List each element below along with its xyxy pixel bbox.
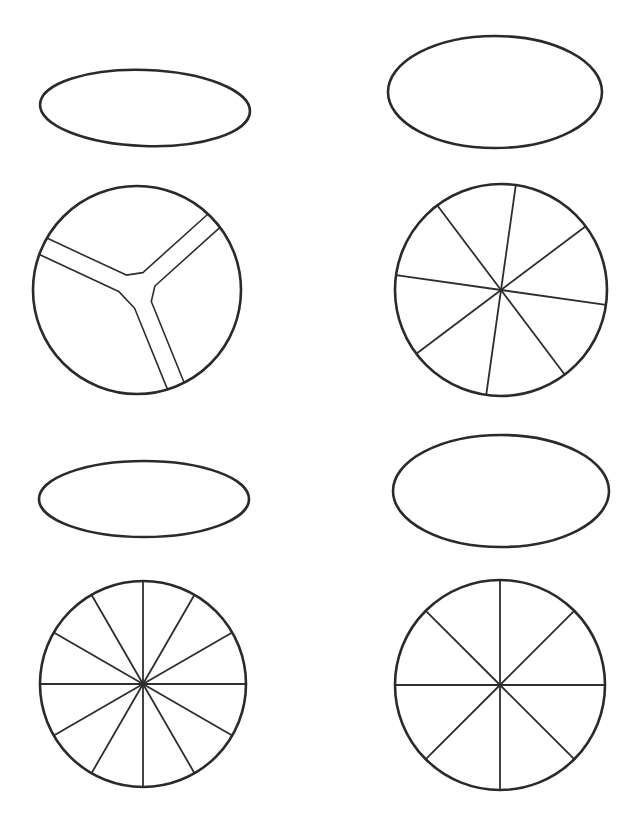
spoke-line xyxy=(486,290,501,395)
panel-top-left xyxy=(33,66,251,394)
ellipse-shape xyxy=(39,66,252,149)
panel-bottom-right xyxy=(393,435,609,790)
circle-outline xyxy=(33,186,241,394)
channel-wall xyxy=(47,214,208,275)
panel-bottom-left xyxy=(39,461,249,787)
spoke-line xyxy=(143,684,232,736)
spoke-line xyxy=(54,633,143,685)
spoke-line xyxy=(500,685,574,759)
spoke-line xyxy=(92,684,144,773)
spoke-line xyxy=(500,611,574,685)
spoke-line xyxy=(54,684,143,736)
divided-circle-12 xyxy=(40,581,246,787)
spoke-line xyxy=(396,275,501,290)
divided-circle-8 xyxy=(395,184,607,396)
panel-top-right xyxy=(388,36,607,396)
spoke-line xyxy=(143,633,232,685)
spoke-line xyxy=(501,290,606,305)
divided-circle-3 xyxy=(33,186,241,394)
spoke-line xyxy=(92,595,144,684)
spoke-line xyxy=(143,595,195,684)
spoke-line xyxy=(501,226,586,290)
spoke-line xyxy=(426,611,500,685)
ellipse-shape xyxy=(39,461,249,537)
divided-circle-8 xyxy=(395,580,605,790)
spoke-line xyxy=(143,684,195,773)
spoke-line xyxy=(426,685,500,759)
spoke-line xyxy=(416,290,501,354)
channel-wall xyxy=(39,254,167,389)
channel-wall xyxy=(151,227,220,382)
ellipse-shape xyxy=(393,435,609,547)
ellipse-shape xyxy=(388,36,602,148)
diagram-canvas xyxy=(0,0,637,826)
spoke-line xyxy=(501,185,516,290)
spoke-line xyxy=(501,290,565,375)
spoke-line xyxy=(437,205,501,290)
